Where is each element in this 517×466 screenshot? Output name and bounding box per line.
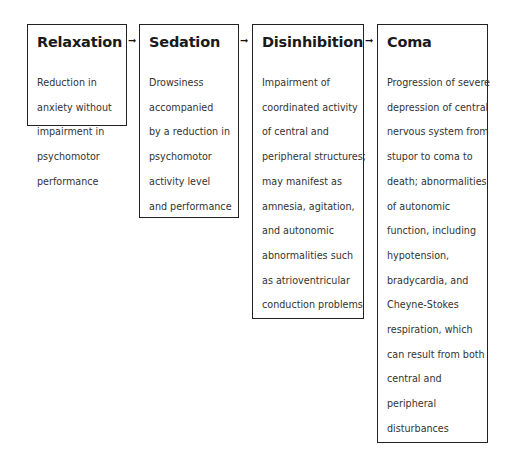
stage-text-line: impairment in (37, 120, 126, 145)
stage-text-line: of central and (262, 120, 363, 145)
stage-text-line: amnesia, agitation, (262, 195, 363, 220)
stage-text-line: and performance (149, 195, 238, 220)
stage-text-line: by a reduction in (149, 120, 238, 145)
stage-box-relaxation: Relaxation Reduction in anxiety without … (27, 24, 127, 126)
stage-text-line: respiration, which (387, 318, 487, 343)
stage-text-line: may manifest as (262, 170, 363, 195)
stage-text-line: Reduction in (37, 71, 126, 96)
stage-text-line: nervous system from (387, 120, 487, 145)
stage-text-line: death; abnormalities (387, 170, 487, 195)
stage-text-line: Cheyne-Stokes (387, 293, 487, 318)
stage-title: Coma (387, 33, 487, 71)
arrow-right-icon: ➞ (128, 36, 136, 46)
stage-text-line: as atrioventricular (262, 269, 363, 294)
stage-box-sedation: Sedation Drowsiness accompanied by a red… (139, 24, 239, 218)
stage-text-line: psychomotor (149, 145, 238, 170)
stage-text-line: activity level (149, 170, 238, 195)
stage-text-line: psychomotor (37, 145, 126, 170)
stage-text-line: peripheral (387, 392, 487, 417)
arrow-right-icon: ➞ (240, 36, 248, 46)
stage-text-line: conduction problems (262, 293, 363, 318)
stage-text-line: and autonomic (262, 219, 363, 244)
stage-text-line: Drowsiness (149, 71, 238, 96)
stage-text-line: performance (37, 170, 126, 195)
stage-text-line: anxiety without (37, 96, 126, 121)
stage-text-line: peripheral structures; (262, 145, 363, 170)
stage-text-line: function, including (387, 219, 487, 244)
stage-text-line: accompanied (149, 96, 238, 121)
stage-text-line: of autonomic (387, 195, 487, 220)
stage-text-line: abnormalities such (262, 244, 363, 269)
stage-text-line: Impairment of (262, 71, 363, 96)
stage-text-line: can result from both (387, 343, 487, 368)
stage-text-line: bradycardia, and (387, 269, 487, 294)
stage-text-line: coordinated activity (262, 96, 363, 121)
stage-text-line: disturbances (387, 417, 487, 442)
stage-title: Disinhibition (262, 33, 363, 71)
stage-box-coma: Coma Progression of severe depression of… (377, 24, 488, 443)
stage-title: Relaxation (37, 33, 126, 71)
stage-text-line: depression of central (387, 96, 487, 121)
stage-text-line: hypotension, (387, 244, 487, 269)
arrow-right-icon: ➞ (365, 36, 373, 46)
stage-title: Sedation (149, 33, 238, 71)
stage-text-line: central and (387, 367, 487, 392)
stage-text-line: Progression of severe (387, 71, 487, 96)
stage-text-line: stupor to coma to (387, 145, 487, 170)
stage-box-disinhibition: Disinhibition Impairment of coordinated … (252, 24, 364, 319)
